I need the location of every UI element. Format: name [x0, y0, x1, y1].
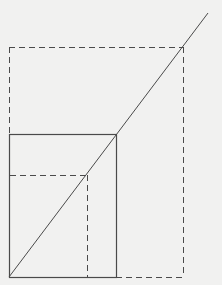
- diagonal-rectangles-diagram: [0, 0, 222, 285]
